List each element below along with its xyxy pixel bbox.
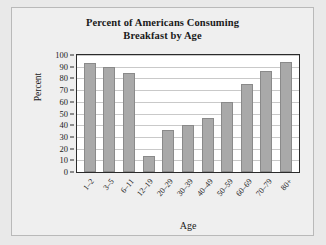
y-axis-tick-label: 30 (60, 132, 69, 142)
x-axis-tick-label: 40–49 (195, 177, 215, 198)
y-axis-tick-mark (70, 113, 74, 114)
y-axis-tick-label: 0 (64, 167, 68, 177)
x-axis-tick: 80+ (281, 175, 293, 215)
x-axis-tick: 50–59 (222, 175, 234, 215)
y-axis-tick-mark (70, 136, 74, 137)
x-axis-tick: 12–19 (142, 175, 154, 215)
x-axis-tick-label: 3–5 (101, 177, 116, 192)
x-axis-tick-label: 30–39 (175, 177, 195, 198)
bar (162, 130, 174, 172)
x-axis-tick-label: 1–2 (81, 177, 96, 192)
bar (123, 73, 135, 172)
y-axis-tick-mark (70, 55, 74, 56)
bar (202, 118, 214, 172)
y-axis-tick-label: 60 (60, 97, 69, 107)
x-axis-label: Age (76, 220, 300, 231)
y-axis-tick-mark (70, 160, 74, 161)
y-axis-tick-label: 80 (60, 73, 69, 83)
x-axis-tick-label: 70–79 (254, 177, 274, 198)
y-axis-tick-mark (70, 66, 74, 67)
y-axis-ticks: 0102030405060708090100 (12, 54, 74, 173)
bar (280, 62, 292, 172)
bar (103, 67, 115, 172)
x-axis-tick-label: 20–29 (155, 177, 175, 198)
plot-area (76, 54, 300, 173)
y-axis-tick-label: 40 (60, 120, 69, 130)
x-axis-tick-label: 80+ (279, 177, 294, 192)
chart-page: Percent of Americans Consuming Breakfast… (0, 0, 326, 245)
x-axis-tick-label: 50–59 (215, 177, 235, 198)
x-axis-tick: 1–2 (83, 175, 95, 215)
y-axis-tick-mark (70, 101, 74, 102)
figure-panel: Percent of Americans Consuming Breakfast… (11, 7, 314, 236)
bar (260, 71, 272, 172)
bar-series (77, 55, 299, 172)
chart-title: Percent of Americans Consuming Breakfast… (12, 17, 313, 42)
y-axis-tick-mark (70, 90, 74, 91)
x-axis-tick-label: 60–69 (235, 177, 255, 198)
y-axis-tick-label: 50 (60, 109, 69, 119)
y-axis-tick-mark (70, 172, 74, 173)
bar (182, 125, 194, 172)
x-axis-tick: 3–5 (103, 175, 115, 215)
bar (241, 84, 253, 172)
bar (221, 102, 233, 172)
bar (143, 156, 155, 172)
chart-title-line-1: Percent of Americans Consuming (12, 17, 313, 30)
y-axis-tick-mark (70, 78, 74, 79)
x-axis-tick: 6–11 (123, 175, 135, 215)
x-axis-tick: 40–49 (202, 175, 214, 215)
x-axis-tick: 60–69 (241, 175, 253, 215)
bar (84, 63, 96, 172)
x-axis-tick: 70–79 (261, 175, 273, 215)
y-axis-tick-mark (70, 148, 74, 149)
x-axis-tick-label: 6–11 (118, 177, 135, 195)
y-axis-tick-mark (70, 125, 74, 126)
y-axis-tick-label: 100 (55, 50, 68, 60)
y-axis-tick-label: 10 (60, 155, 69, 165)
chart-title-line-2: Breakfast by Age (12, 30, 313, 43)
x-axis-tick-label: 12–19 (135, 177, 155, 198)
x-axis-tick: 30–39 (182, 175, 194, 215)
y-axis-tick-label: 90 (60, 62, 69, 72)
y-axis-tick-label: 70 (60, 85, 69, 95)
x-axis-ticks: 1–23–56–1112–1920–2930–3940–4950–5960–69… (76, 175, 300, 215)
y-axis-tick-label: 20 (60, 144, 69, 154)
x-axis-tick: 20–29 (162, 175, 174, 215)
